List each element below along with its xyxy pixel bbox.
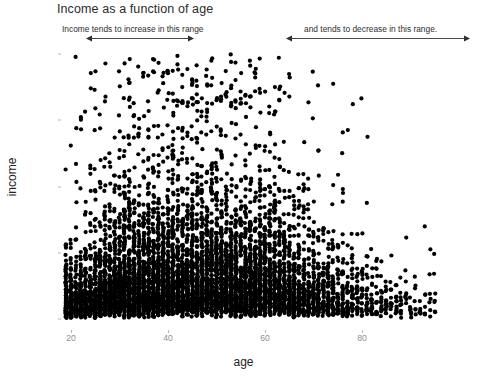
x-tick-mark <box>362 330 363 333</box>
scatter-points-layer <box>62 44 482 329</box>
x-tick-mark <box>71 330 72 333</box>
y-tick-mark <box>58 252 61 253</box>
y-axis-title: income <box>5 142 19 212</box>
annotation-left-arrow <box>86 33 194 44</box>
x-tick-mark <box>168 330 169 333</box>
plot-panel <box>62 44 482 329</box>
x-tick-label: 80 <box>357 333 367 343</box>
x-tick-label: 40 <box>163 333 173 343</box>
x-tick-label: 20 <box>66 333 76 343</box>
y-tick-mark <box>58 54 61 55</box>
y-tick-mark <box>58 120 61 121</box>
x-axis-title: age <box>0 355 487 369</box>
scatter-plot-figure: Income as a function of age Income tends… <box>0 0 487 378</box>
y-tick-mark <box>58 319 61 320</box>
page-title: Income as a function of age <box>57 2 213 16</box>
x-tick-mark <box>265 330 266 333</box>
y-tick-mark <box>58 186 61 187</box>
x-tick-label: 60 <box>260 333 270 343</box>
annotation-right-arrow <box>286 33 470 44</box>
